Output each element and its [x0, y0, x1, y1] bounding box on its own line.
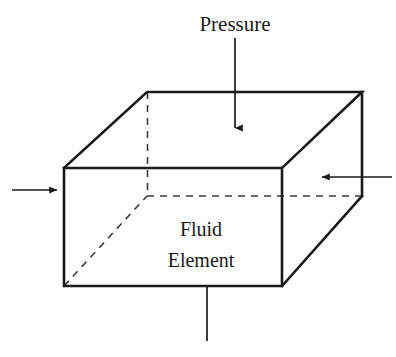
- pressure-arrows: [12, 38, 392, 341]
- fluid-element-diagram: Pressure Fluid Element: [0, 0, 396, 357]
- box-edge-bottom-right-receding: [282, 196, 362, 286]
- fluid-element-label-line2: Element: [168, 249, 235, 271]
- diagram-canvas: Pressure Fluid Element: [0, 0, 396, 357]
- fluid-element-label-line1: Fluid: [180, 218, 222, 240]
- box-top-face-edges: [64, 92, 362, 168]
- pressure-label: Pressure: [199, 12, 270, 36]
- hidden-edge-bottom-left-receding: [64, 196, 147, 286]
